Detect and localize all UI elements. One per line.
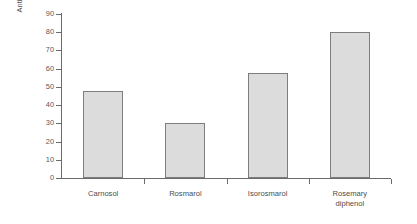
bar-rosemary-diphenol [330,32,370,178]
x-axis-line [61,178,391,179]
y-tick-70 [56,50,61,51]
y-tick-20 [56,142,61,143]
y-tick-label-10: 10 [32,156,54,164]
y-tick-label-80: 80 [32,28,54,36]
x-tick-3 [309,179,310,184]
y-tick-10 [56,160,61,161]
y-tick-50 [56,87,61,88]
y-tick-80 [56,32,61,33]
y-tick-label-90: 90 [32,10,54,18]
y-tick-30 [56,123,61,124]
bar-isorosmarol [248,73,288,178]
y-tick-60 [56,69,61,70]
y-tick-label-wrap: 90 [30,10,54,18]
x-tick-4 [391,179,392,184]
y-axis-title: Antioxidant activity (%) [14,0,26,44]
y-tick-0 [56,178,61,179]
y-tick-label-wrap: 80 [30,28,54,36]
y-tick-label-wrap: 50 [30,83,54,91]
y-tick-90 [56,14,61,15]
plot-area [62,14,392,178]
category-label-carnosol: Carnosol [62,189,144,199]
y-tick-label-20: 20 [32,138,54,146]
y-tick-label-wrap: 60 [30,65,54,73]
y-tick-label-wrap: 10 [30,156,54,164]
y-tick-40 [56,105,61,106]
x-tick-1 [144,179,145,184]
bar-rosmarol [165,123,205,178]
y-tick-label-70: 70 [32,46,54,54]
y-tick-label-50: 50 [32,83,54,91]
x-tick-2 [227,179,228,184]
y-tick-label-wrap: 40 [30,101,54,109]
y-tick-label-60: 60 [32,65,54,73]
category-label-isorosmarol: Isorosmarol [227,189,309,199]
y-tick-label-wrap: 0 [30,174,54,182]
category-label-rosmarol: Rosmarol [144,189,226,199]
category-label-rosemary-diphenol: Rosemary diphenol [309,189,391,209]
y-tick-label-wrap: 30 [30,119,54,127]
bar-chart: Antioxidant activity (%) 010203040506070… [0,0,417,224]
y-tick-label-30: 30 [32,119,54,127]
y-tick-label-wrap: 20 [30,138,54,146]
y-tick-label-wrap: 70 [30,46,54,54]
y-tick-label-40: 40 [32,101,54,109]
y-tick-label-0: 0 [32,174,54,182]
bar-carnosol [83,91,123,178]
